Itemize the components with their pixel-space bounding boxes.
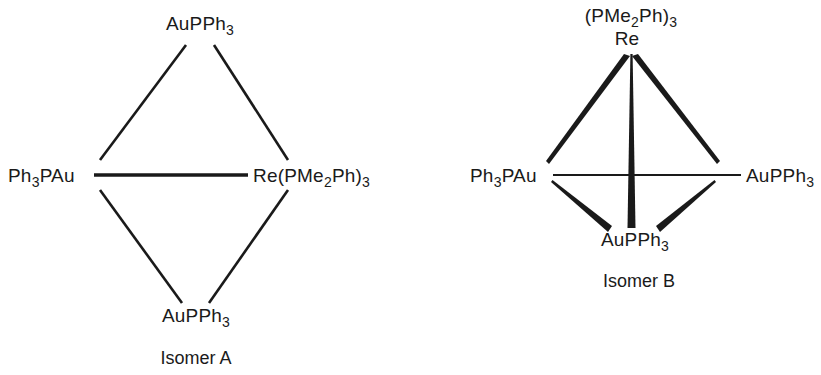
bond-b-left-bottom: [551, 180, 612, 232]
isomer-pair-diagram: AuPPh3 Ph3PAu Re(PMe2Ph)3 AuPPh3 Isomer …: [0, 0, 821, 375]
bond-b-right-bottom: [656, 180, 716, 232]
label-b-left: Ph3PAu: [470, 165, 537, 190]
bond-b-apex-bottom: [628, 54, 636, 228]
label-a-top: AuPPh3: [166, 13, 234, 38]
isomer-a-group: AuPPh3 Ph3PAu Re(PMe2Ph)3 AuPPh3 Isomer …: [8, 13, 370, 368]
bond-a-right-bottom: [209, 190, 288, 303]
caption-isomer-a: Isomer A: [160, 348, 231, 368]
caption-isomer-b: Isomer B: [603, 271, 675, 291]
bond-b-apex-right: [632, 54, 720, 164]
label-b-apex-metal: Re: [615, 28, 640, 49]
bond-a-top-left: [100, 45, 186, 160]
isomer-b-group: (PMe2Ph)3 Re Ph3PAu AuPPh3 AuPPh3 Isomer…: [470, 5, 814, 291]
diagram-canvas: AuPPh3 Ph3PAu Re(PMe2Ph)3 AuPPh3 Isomer …: [0, 0, 821, 375]
label-a-left: Ph3PAu: [8, 165, 75, 190]
label-b-apex-ligand: (PMe2Ph)3: [585, 5, 677, 30]
label-a-right: Re(PMe2Ph)3: [253, 165, 370, 190]
bond-a-top-right: [214, 45, 288, 160]
label-b-bottom: AuPPh3: [601, 229, 669, 254]
label-a-bottom: AuPPh3: [162, 305, 230, 330]
bond-a-left-bottom: [100, 190, 182, 303]
label-b-right: AuPPh3: [746, 165, 814, 190]
bond-b-apex-left: [546, 54, 630, 164]
